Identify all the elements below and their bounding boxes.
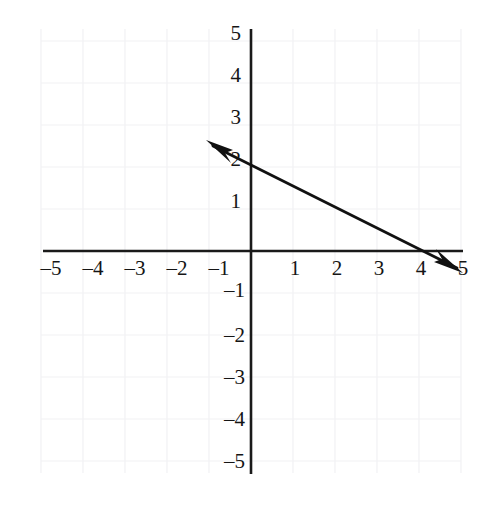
x-tick-label-4: 4 [416,258,427,279]
y-tick-label-4: 4 [231,65,242,86]
x-tick-label-neg2: –2 [167,258,188,279]
y-tick-label-neg4: –4 [224,409,245,430]
y-tick-label-2: 2 [231,149,242,170]
arrowhead-left [206,140,233,163]
x-tick-label-3: 3 [374,258,385,279]
axes [43,29,463,474]
y-tick-label-3: 3 [231,107,242,128]
x-tick-label-neg3: –3 [125,258,146,279]
x-tick-label-2: 2 [332,258,343,279]
y-tick-label-neg3: –3 [224,367,245,388]
x-tick-label-neg4: –4 [83,258,104,279]
x-tick-label-1: 1 [290,258,301,279]
y-tick-label-1: 1 [231,191,242,212]
plot-area [0,0,488,509]
y-tick-label-5: 5 [231,23,242,44]
y-tick-label-neg5: –5 [224,451,245,472]
x-tick-label-neg5: –5 [41,258,62,279]
y-tick-label-neg2: –2 [224,325,245,346]
x-tick-label-neg1: –1 [209,258,230,279]
x-tick-label-5: 5 [458,258,469,279]
coordinate-plane-graph: –5 –4 –3 –2 –1 1 2 3 4 5 5 4 3 2 1 –1 –2… [0,0,488,509]
y-tick-label-neg1: –1 [224,280,245,301]
